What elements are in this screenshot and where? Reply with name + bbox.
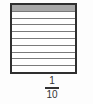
unshaded-part	[12, 11, 75, 18]
unshaded-part	[12, 58, 75, 65]
unshaded-part	[12, 31, 75, 38]
fraction-label: 1 10	[39, 76, 65, 100]
unshaded-part	[12, 18, 75, 25]
unshaded-part	[12, 52, 75, 59]
unshaded-part	[12, 45, 75, 52]
unshaded-part	[12, 24, 75, 31]
fraction-denominator: 10	[39, 90, 65, 100]
fraction-numerator: 1	[39, 76, 65, 86]
fraction-strip-square	[10, 3, 77, 74]
unshaded-part	[12, 38, 75, 45]
unshaded-part	[12, 65, 75, 72]
